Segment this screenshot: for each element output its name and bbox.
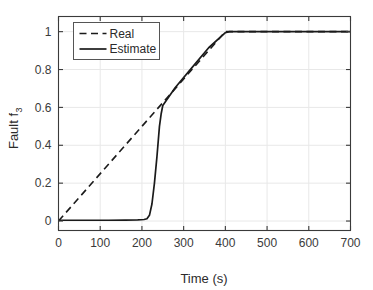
y-tick-label: 0: [45, 214, 52, 228]
x-tick-label: 500: [257, 236, 277, 250]
x-tick-label: 600: [299, 236, 319, 250]
x-tick-label: 700: [340, 236, 360, 250]
x-tick-label: 300: [174, 236, 194, 250]
y-axis-title-subscript: 3: [14, 107, 24, 112]
x-axis-title: Time (s): [180, 271, 227, 286]
figure-container: 010020030040050060070000.20.40.60.81 Tim…: [0, 0, 373, 290]
chart-legend[interactable]: RealEstimate: [74, 23, 160, 60]
y-tick-label: 0.8: [35, 63, 52, 77]
x-tick-label: 400: [215, 236, 235, 250]
x-tick-label: 100: [90, 236, 110, 250]
y-axis-title-text: Fault f: [6, 113, 21, 150]
fault-estimation-line-chart: 010020030040050060070000.20.40.60.81 Tim…: [0, 0, 373, 290]
legend-label-estimate: Estimate: [110, 42, 157, 56]
x-tick-label: 0: [55, 236, 62, 250]
y-tick-label: 0.4: [35, 138, 52, 152]
legend-label-real: Real: [110, 27, 135, 41]
y-tick-label: 0.2: [35, 176, 52, 190]
x-tick-label: 200: [132, 236, 152, 250]
y-axis-title: Fault f 3: [6, 107, 24, 149]
x-axis-title-text: Time (s): [180, 271, 227, 286]
y-tick-label: 0.6: [35, 101, 52, 115]
y-tick-label: 1: [45, 25, 52, 39]
